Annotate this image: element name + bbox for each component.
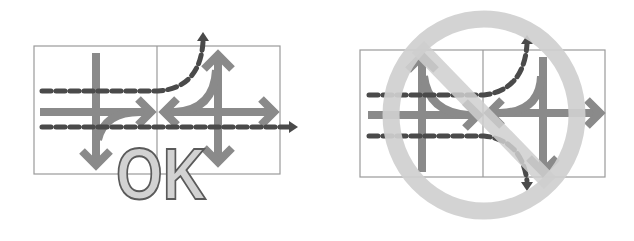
diagram-canvas: OK [0,0,634,241]
right-curve-up-branch [500,76,541,113]
left-curve-up-branch [175,70,216,112]
ok-label: OK [116,134,206,214]
right-panel-prohibited [360,19,605,211]
left-dashed-top-path-icon [42,32,209,91]
left-panel-ok: OK [34,32,298,214]
